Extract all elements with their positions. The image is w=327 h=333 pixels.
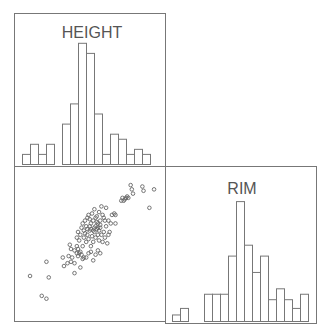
scatter-point xyxy=(68,243,72,247)
histogram-bar xyxy=(261,256,269,321)
scatter-point xyxy=(91,259,95,263)
scatter-point xyxy=(69,247,73,251)
histogram-bar xyxy=(253,272,261,321)
scatter-point xyxy=(28,274,32,278)
histogram-bar xyxy=(47,144,55,164)
scatter-point xyxy=(97,239,101,243)
histogram-bar xyxy=(31,144,39,164)
histogram-bar xyxy=(111,134,119,164)
scatter-point xyxy=(105,242,109,246)
scatter-panel-frame xyxy=(15,167,166,322)
histogram-bar xyxy=(293,308,301,321)
scatter-point xyxy=(70,256,74,260)
histogram-bar xyxy=(277,289,285,322)
scatter-point xyxy=(45,260,49,264)
scatter-point xyxy=(73,271,77,275)
scatter-point xyxy=(114,222,118,226)
histogram-bar xyxy=(143,154,151,164)
height-histogram xyxy=(23,43,151,164)
scatter-point xyxy=(152,188,156,192)
histogram-bar xyxy=(229,256,237,321)
scatter-point xyxy=(130,188,134,192)
scatter-point xyxy=(79,266,83,270)
histogram-bar xyxy=(63,124,71,164)
scatter-point xyxy=(94,253,98,257)
height-rim-scatter xyxy=(28,183,156,300)
scatter-point xyxy=(67,254,71,258)
histogram-bar xyxy=(23,154,31,164)
scatter-point xyxy=(131,192,135,196)
scatter-point xyxy=(101,240,105,244)
scatter-point xyxy=(73,261,77,265)
scatter-point xyxy=(93,207,97,211)
scatter-point xyxy=(66,261,70,265)
scatter-point xyxy=(90,212,94,216)
scatter-point xyxy=(148,206,152,210)
histogram-bar xyxy=(213,294,221,321)
histogram-bar xyxy=(135,149,143,164)
scatter-point xyxy=(90,234,94,238)
histogram-bar xyxy=(301,294,309,321)
scatter-point xyxy=(141,185,145,189)
histogram-bar xyxy=(79,43,87,164)
rim-histogram xyxy=(173,202,309,322)
rim-label: RIM xyxy=(227,180,256,197)
histogram-bar xyxy=(181,308,189,321)
scatter-point xyxy=(87,237,91,241)
histogram-bar xyxy=(39,154,47,164)
scatter-point xyxy=(69,260,73,264)
height-label: HEIGHT xyxy=(62,24,123,41)
scatter-point xyxy=(62,264,66,268)
scatter-point xyxy=(103,236,107,240)
histogram-bar xyxy=(269,300,277,322)
histogram-bar xyxy=(119,139,127,164)
scatter-point xyxy=(98,219,102,223)
scatter-point xyxy=(97,210,101,214)
scatter-point xyxy=(76,230,80,234)
scatter-point xyxy=(142,189,146,193)
scatter-point xyxy=(40,294,44,298)
scatter-point xyxy=(82,236,86,240)
scatter-point xyxy=(96,233,100,237)
scatter-point xyxy=(91,240,95,244)
histogram-bar xyxy=(237,202,245,322)
scatter-point xyxy=(61,256,65,260)
scatter-point xyxy=(98,251,102,255)
scatter-point xyxy=(81,244,85,248)
histogram-bar xyxy=(221,294,229,321)
histogram-bar xyxy=(71,104,79,165)
scatter-point xyxy=(47,276,51,280)
scatter-point xyxy=(89,244,93,248)
histogram-bar xyxy=(95,114,103,165)
histogram-bar xyxy=(245,245,253,321)
scatter-point xyxy=(109,222,113,226)
scatter-point xyxy=(102,230,106,234)
histogram-bar xyxy=(173,315,181,322)
histogram-bar xyxy=(87,53,95,164)
histogram-bar xyxy=(127,154,135,164)
scatter-point xyxy=(75,236,79,240)
scatter-point xyxy=(104,224,108,228)
scatter-point xyxy=(129,183,133,187)
scatter-point xyxy=(100,205,104,209)
histogram-bar xyxy=(205,294,213,321)
histogram-bar xyxy=(103,154,111,164)
scatterplot-matrix: HEIGHT RIM xyxy=(0,0,327,333)
scatter-point xyxy=(84,256,88,260)
histogram-bar xyxy=(285,300,293,322)
scatter-point xyxy=(45,297,49,301)
scatter-point xyxy=(104,206,108,210)
